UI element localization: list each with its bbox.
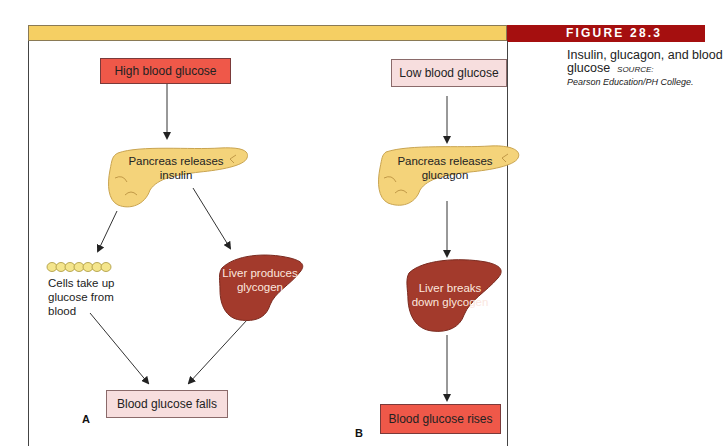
glucose-rises-box: Blood glucose rises: [380, 404, 501, 434]
pancreas-label-a: Pancreas releases insulin: [120, 154, 232, 182]
arrow-a3: [193, 188, 230, 248]
liver-label-b: Liver breaks down glycogen: [408, 281, 492, 309]
pancreas-label-b: Pancreas releases glucagon: [389, 154, 501, 182]
liver-label-a: Liver produces glycogen: [222, 266, 298, 294]
arrow-a4: [90, 313, 148, 383]
panel-letter-b: B: [355, 427, 363, 439]
cells-icon: [47, 263, 111, 272]
cells-label: Cells take up glucose from blood: [48, 276, 114, 318]
low-glucose-box: Low blood glucose: [391, 59, 507, 87]
glucose-falls-box: Blood glucose falls: [106, 390, 228, 418]
panel-letter-a: A: [82, 413, 90, 425]
arrow-a2: [98, 211, 117, 251]
high-glucose-box: High blood glucose: [100, 58, 231, 84]
arrow-a5: [189, 320, 247, 383]
